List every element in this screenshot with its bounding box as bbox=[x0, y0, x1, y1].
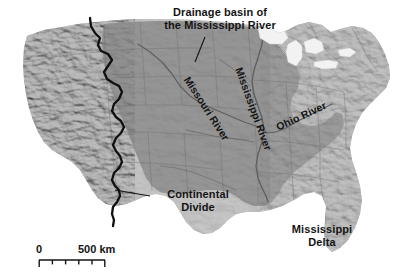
scale-bar-zero-label: 0 bbox=[36, 243, 42, 255]
continental-divide-label: Continental Divide bbox=[152, 188, 244, 213]
mississippi-delta-label: Mississippi Delta bbox=[276, 223, 368, 248]
scale-bar-ruler bbox=[38, 259, 106, 268]
scale-bar-max-label: 500 km bbox=[78, 243, 115, 255]
mississippi-drainage-basin-map: Drainage basin of the Mississippi River … bbox=[0, 0, 407, 280]
scale-bar: 0 500 km bbox=[36, 243, 132, 275]
drainage-basin-title-label: Drainage basin of the Mississippi River bbox=[152, 6, 288, 31]
